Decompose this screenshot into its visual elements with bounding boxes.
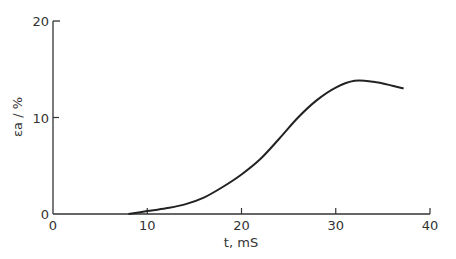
x-tick-label: 0 <box>49 218 57 233</box>
x-tick-label: 40 <box>422 218 439 233</box>
chart: 010203040 01020 t, mS εa / % <box>0 0 456 259</box>
x-ticks: 010203040 <box>49 208 438 233</box>
x-tick-label: 10 <box>139 218 156 233</box>
chart-svg: 010203040 01020 t, mS εa / % <box>0 0 456 259</box>
x-tick-label: 20 <box>233 218 250 233</box>
y-tick-label: 20 <box>32 14 49 29</box>
axes <box>53 21 430 214</box>
data-line <box>128 80 403 214</box>
y-ticks: 01020 <box>32 14 59 222</box>
x-axis-label: t, mS <box>224 235 258 250</box>
y-axis-label: εa / % <box>10 97 25 137</box>
y-tick-label: 0 <box>41 207 49 222</box>
x-tick-label: 30 <box>327 218 344 233</box>
y-tick-label: 10 <box>32 111 49 126</box>
